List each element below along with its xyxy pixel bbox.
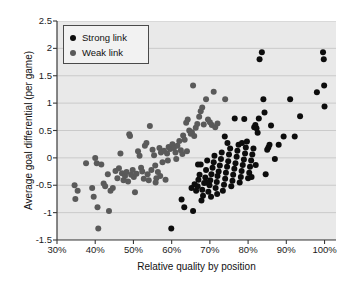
data-point [106, 208, 112, 214]
x-axis-tick-label: 80% [228, 245, 268, 255]
y-axis-tick-label: 0 [47, 153, 52, 163]
data-point [157, 173, 163, 179]
data-point [226, 152, 232, 158]
data-point [204, 158, 210, 164]
chart-legend: Strong link Weak link [63, 25, 149, 64]
data-point [238, 174, 244, 180]
y-axis-tick-label: -0.5 [36, 180, 52, 190]
data-point [182, 137, 188, 143]
data-point [218, 156, 224, 162]
data-point [314, 89, 320, 95]
data-point [249, 152, 255, 158]
x-axis-tick-label: 40% [75, 245, 115, 255]
data-point [173, 156, 179, 162]
data-point [203, 180, 209, 186]
x-axis-tick-label: 90% [266, 245, 306, 255]
data-point [92, 155, 98, 161]
data-point [194, 121, 200, 127]
y-axis-tick-label: 2.5 [39, 16, 52, 26]
data-point [75, 188, 81, 194]
data-point [281, 134, 287, 140]
data-point [230, 172, 236, 178]
data-point [253, 162, 259, 168]
data-point [165, 158, 171, 164]
data-point [185, 117, 191, 123]
data-point [213, 185, 219, 191]
x-axis-tick-label: 100% [305, 245, 345, 255]
data-point [268, 123, 274, 129]
data-point [248, 158, 254, 164]
data-point [234, 148, 240, 154]
data-point [176, 138, 182, 144]
legend-label-weak-link: Weak link [82, 48, 123, 58]
data-point [211, 159, 217, 165]
data-point [191, 133, 197, 139]
data-point [143, 140, 149, 146]
data-point [95, 226, 101, 232]
data-point [197, 172, 203, 178]
data-point [260, 96, 266, 102]
data-point [102, 183, 108, 189]
data-point [216, 169, 222, 175]
legend-marker-strong-link [70, 35, 76, 41]
data-point [203, 96, 209, 102]
data-point [263, 171, 269, 177]
data-point [222, 176, 228, 182]
data-point [190, 208, 196, 214]
data-point [72, 196, 78, 202]
data-point [297, 113, 303, 119]
data-point [199, 187, 205, 193]
data-point [224, 140, 230, 146]
data-point [210, 165, 216, 171]
data-point [114, 175, 120, 181]
data-point [223, 170, 229, 176]
data-point [211, 89, 217, 95]
data-point [214, 179, 220, 185]
x-axis-tick-label: 70% [190, 245, 230, 255]
data-point [214, 191, 220, 197]
data-point [179, 196, 185, 202]
data-point [241, 116, 247, 122]
data-point [196, 114, 202, 120]
data-point [228, 183, 234, 189]
y-axis-tick-label: 1.5 [39, 71, 52, 81]
x-axis-tick-labels: 30%40%50%60%70%80%90%100% [0, 245, 357, 259]
y-axis-tick-label: -1 [44, 208, 52, 218]
data-point [132, 189, 138, 195]
data-point [232, 160, 238, 166]
data-point [219, 149, 225, 155]
data-point [208, 171, 214, 177]
data-point [203, 167, 209, 173]
data-point [159, 159, 165, 165]
data-point [249, 174, 255, 180]
legend-label-strong-link: Strong link [82, 33, 127, 43]
data-point [190, 83, 196, 89]
data-point [147, 123, 153, 129]
data-point [134, 171, 140, 177]
data-point [208, 194, 214, 200]
data-point [201, 121, 207, 127]
data-point [83, 160, 89, 166]
data-point [232, 115, 238, 121]
data-point [220, 188, 226, 194]
y-axis-tick-label: 0.5 [39, 126, 52, 136]
legend-marker-weak-link [70, 50, 76, 56]
data-point [211, 153, 217, 159]
x-axis-tick-label: 60% [152, 245, 192, 255]
data-point [287, 96, 293, 102]
data-point [240, 162, 246, 168]
x-axis-tick-label: 30% [37, 245, 77, 255]
data-point [105, 171, 111, 177]
data-point [250, 146, 256, 152]
y-axis-tick-label: 1 [47, 98, 52, 108]
legend-item-weak-link: Weak link [70, 45, 143, 60]
data-point [152, 163, 158, 169]
data-point [242, 151, 248, 157]
data-point [146, 177, 152, 183]
data-point [110, 185, 116, 191]
data-point [262, 109, 268, 115]
data-point [179, 151, 185, 157]
data-point [72, 182, 78, 188]
data-point [321, 83, 327, 89]
y-axis-title: Average goal differential (per game) [23, 12, 34, 250]
